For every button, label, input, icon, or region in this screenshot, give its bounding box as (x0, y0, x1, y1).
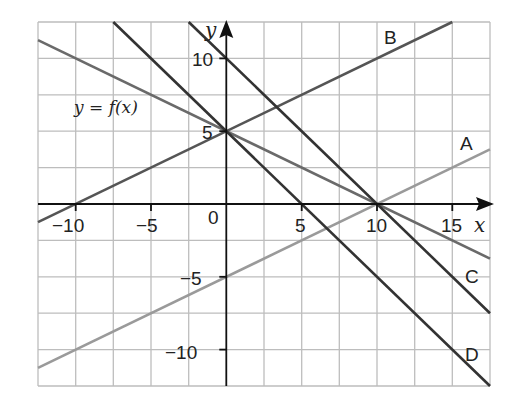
graph-canvas: −10 −5 0 5 10 15 10 5 −5 −10 y x y = f(x… (0, 0, 514, 410)
line-b (38, 22, 452, 222)
x-tick-10: 10 (366, 215, 387, 236)
x-axis-label: x (474, 213, 485, 237)
y-axis-label: y (204, 18, 217, 42)
label-b: B (384, 27, 397, 48)
x-tick-5: 5 (295, 215, 306, 236)
function-label: y = f(x) (73, 97, 138, 117)
x-tick-minus5: −5 (136, 215, 158, 236)
y-tick-minus10: −10 (165, 342, 197, 363)
x-tick-minus10: −10 (52, 215, 84, 236)
y-tick-minus5: −5 (180, 268, 202, 289)
label-d: D (465, 344, 479, 365)
x-tick-0: 0 (208, 207, 219, 228)
axes (38, 20, 494, 386)
label-c: C (465, 266, 479, 287)
label-a: A (460, 133, 473, 154)
y-tick-5: 5 (202, 122, 213, 143)
y-tick-10: 10 (192, 49, 213, 70)
x-tick-15: 15 (441, 215, 462, 236)
